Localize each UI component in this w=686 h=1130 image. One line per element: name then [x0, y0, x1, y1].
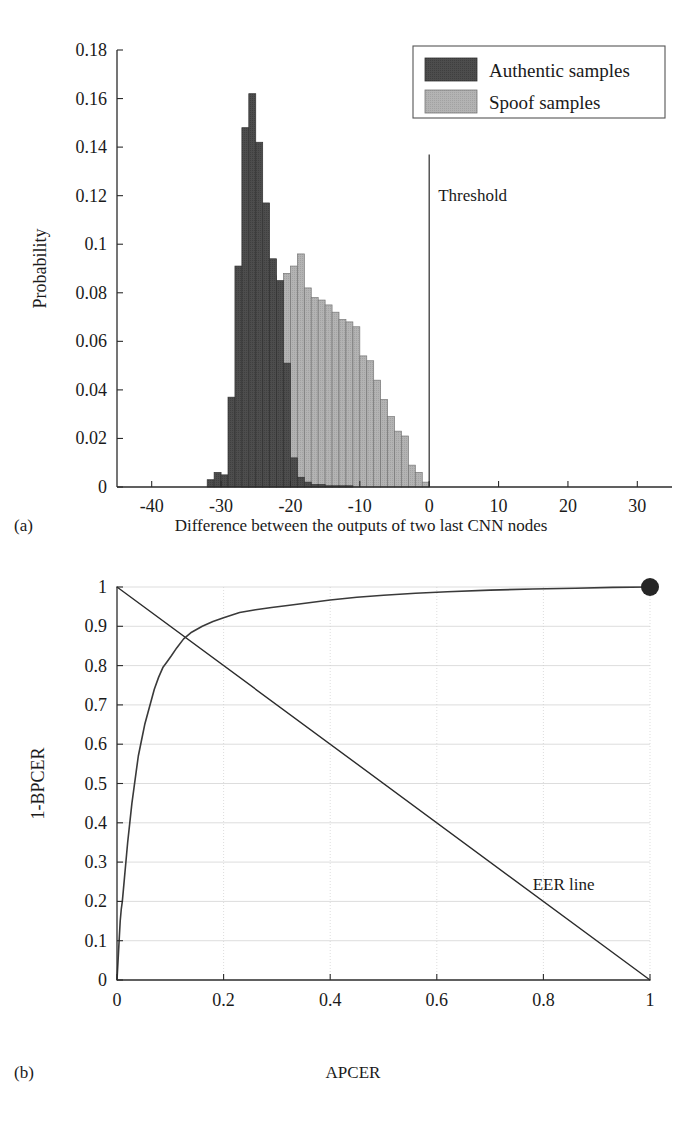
x-tick-label: 0.4: [319, 990, 342, 1010]
x-tick-label: -30: [209, 496, 233, 516]
legend: Authentic samplesSpoof samples: [413, 46, 665, 118]
histogram-bar: [290, 458, 297, 487]
histogram-bar: [415, 472, 422, 487]
histogram-bar: [284, 363, 291, 487]
y-tick-label: 0.3: [85, 852, 108, 872]
histogram-bar: [249, 94, 256, 487]
histogram-bar: [214, 472, 221, 487]
histogram-bar: [290, 266, 297, 487]
x-tick-label: 0: [113, 990, 122, 1010]
histogram-bar: [207, 480, 214, 487]
histogram-bar: [353, 327, 360, 487]
histogram-bar: [339, 319, 346, 487]
histogram-bar: [332, 312, 339, 487]
histogram-bar: [297, 254, 304, 487]
x-tick-label: -20: [278, 496, 302, 516]
legend-swatch: [425, 90, 477, 113]
y-tick-label: 1: [98, 577, 107, 597]
histogram-bar: [277, 281, 284, 487]
legend-label: Authentic samples: [489, 60, 630, 81]
roc-chart: EER line00.10.20.30.40.50.60.70.80.9100.…: [0, 565, 686, 1130]
panel-b-roc: EER line00.10.20.30.40.50.60.70.80.9100.…: [0, 565, 686, 1130]
histogram-bar: [381, 400, 388, 487]
y-tick-label: 0.7: [85, 695, 108, 715]
histogram-bar: [367, 361, 374, 487]
threshold-label: Threshold: [438, 186, 507, 205]
histogram-bar: [256, 142, 263, 487]
legend-swatch: [425, 58, 477, 81]
eer-line-label: EER line: [533, 875, 595, 894]
histogram-bar: [401, 436, 408, 487]
histogram-bar: [304, 482, 311, 487]
y-tick-label: 0.9: [85, 616, 108, 636]
y-tick-label: 0.4: [85, 813, 108, 833]
histogram-bar: [304, 288, 311, 487]
y-tick-label: 0.1: [85, 234, 108, 254]
x-tick-label: -10: [348, 496, 372, 516]
histogram-bar: [221, 475, 228, 487]
x-tick-label: 0: [425, 496, 434, 516]
panel-a-histogram: Threshold00.020.040.060.080.10.120.140.1…: [0, 0, 686, 565]
panel-b-caption-text: APCER: [10, 1063, 686, 1083]
histogram-bar: [360, 356, 367, 487]
y-tick-label: 0: [98, 970, 107, 990]
y-tick-label: 0.6: [85, 734, 108, 754]
y-tick-label: 0.08: [76, 283, 108, 303]
y-tick-label: 0.8: [85, 656, 108, 676]
histogram-bar: [422, 482, 429, 487]
y-tick-label: 0.12: [76, 186, 108, 206]
histogram-bar: [395, 431, 402, 487]
x-tick-label: 0.8: [532, 990, 555, 1010]
histogram-bar: [242, 128, 249, 487]
x-tick-label: 0.2: [212, 990, 235, 1010]
x-tick-label: 20: [559, 496, 577, 516]
histogram-bar: [228, 397, 235, 487]
y-tick-label: 0.1: [85, 931, 108, 951]
y-axis-title: 1-BPCER: [28, 747, 48, 819]
y-tick-label: 0.02: [76, 428, 108, 448]
x-tick-label: 30: [628, 496, 646, 516]
histogram-bar: [388, 417, 395, 487]
histogram-bar: [311, 298, 318, 487]
y-tick-label: 0.16: [76, 89, 108, 109]
histogram-bar: [325, 305, 332, 487]
y-tick-label: 0.5: [85, 774, 108, 794]
y-tick-label: 0.04: [76, 380, 108, 400]
histogram-bar: [297, 477, 304, 487]
roc-plot-area: EER line00.10.20.30.40.50.60.70.80.9100.…: [85, 577, 660, 1010]
figure-container: Threshold00.020.040.060.080.10.120.140.1…: [0, 0, 686, 1130]
y-tick-label: 0.06: [76, 331, 108, 351]
panel-a-caption-text: Difference between the outputs of two la…: [18, 516, 686, 536]
histogram-chart: Threshold00.020.040.060.080.10.120.140.1…: [0, 0, 686, 565]
y-tick-label: 0.14: [76, 137, 108, 157]
histogram-bar: [270, 259, 277, 487]
x-tick-label: 0.6: [426, 990, 449, 1010]
histogram-bar: [374, 380, 381, 487]
y-tick-label: 0: [98, 477, 107, 497]
histogram-bar: [408, 465, 415, 487]
y-tick-label: 0.18: [76, 40, 108, 60]
x-tick-label: -40: [140, 496, 164, 516]
histogram-bar: [235, 266, 242, 487]
legend-label: Spoof samples: [489, 92, 600, 113]
x-tick-label: 10: [490, 496, 508, 516]
histogram-bar: [346, 322, 353, 487]
histogram-bar: [318, 300, 325, 487]
roc-endpoint-marker: [641, 578, 659, 596]
y-axis-title: Probability: [30, 229, 50, 309]
histogram-bar: [263, 203, 270, 487]
y-tick-label: 0.2: [85, 891, 108, 911]
x-tick-label: 1: [646, 990, 655, 1010]
